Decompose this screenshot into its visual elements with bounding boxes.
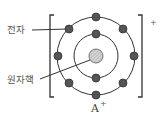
- electron: [119, 79, 127, 87]
- ion-charge: +: [100, 99, 107, 108]
- right-bracket: [138, 15, 142, 97]
- ion-symbol: A: [90, 102, 100, 115]
- nucleus-leader-line: [40, 60, 90, 79]
- electron: [130, 52, 138, 60]
- electron: [65, 25, 73, 33]
- electron-label: 전자: [7, 24, 25, 35]
- nucleus: [89, 49, 103, 63]
- electron: [65, 79, 73, 87]
- electron: [119, 25, 127, 33]
- electron: [54, 52, 62, 60]
- electron: [92, 74, 100, 82]
- left-bracket: [50, 15, 54, 97]
- electron-leader-line: [32, 29, 68, 30]
- electron: [92, 30, 100, 38]
- atom-diagram: 전자 원자핵 + A +: [0, 0, 166, 120]
- nucleus-label: 원자핵: [7, 74, 34, 85]
- bracket-charge: +: [150, 18, 157, 27]
- electron: [92, 13, 100, 21]
- electron: [92, 91, 100, 99]
